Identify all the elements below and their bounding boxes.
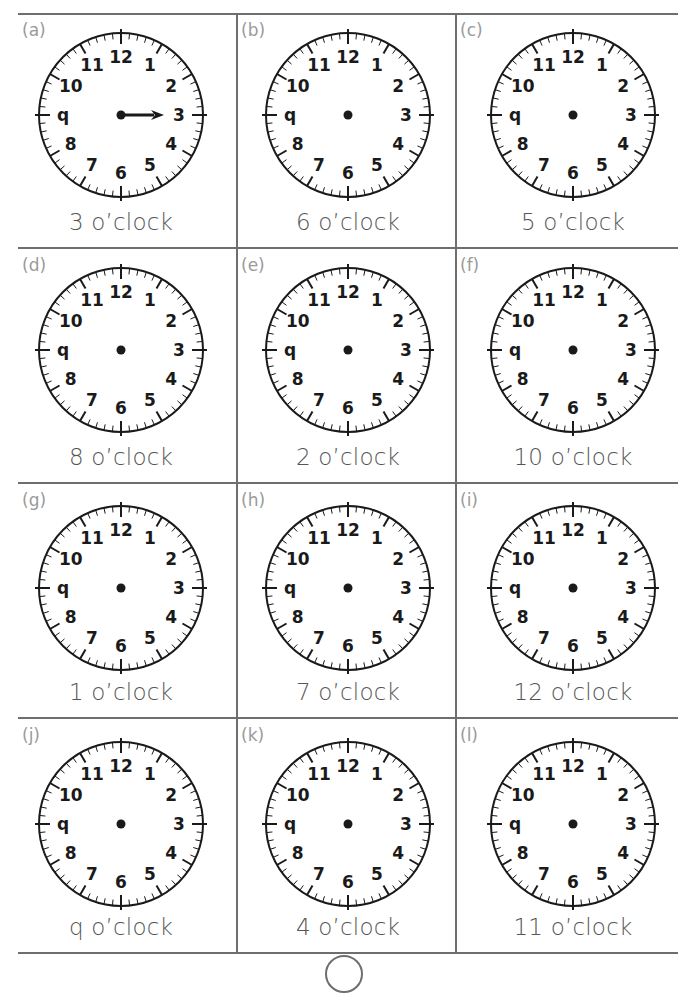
clock-numeral: 3 <box>400 340 412 360</box>
clock-numeral: 12 <box>561 47 585 67</box>
clock-numeral: 1 <box>371 764 383 784</box>
clock-numeral: 12 <box>109 756 133 776</box>
clock-center-dot <box>117 820 126 829</box>
clock-numeral: 5 <box>371 628 383 648</box>
clock-center-dot <box>117 584 126 593</box>
clock-face[interactable]: 1212345678q1011 <box>33 500 209 676</box>
clock-numeral: 4 <box>617 607 629 627</box>
clock-numeral: 3 <box>173 578 185 598</box>
clock-numeral: 11 <box>307 55 331 75</box>
clock-numeral: 1 <box>144 290 156 310</box>
clock-face[interactable]: 1212345678q1011 <box>485 262 661 438</box>
clock-face[interactable]: 1212345678q1011 <box>260 262 436 438</box>
minute-tick <box>424 341 430 342</box>
clock-numeral: 10 <box>286 311 310 331</box>
clock-numeral: 8 <box>65 607 77 627</box>
clock-numeral: 2 <box>392 549 404 569</box>
time-label: 11 o’clock <box>462 914 684 940</box>
minute-tick <box>129 268 130 274</box>
clock-numeral: 6 <box>342 636 354 656</box>
clock-cell-h: (h)1212345678q10117 o’clock <box>237 484 456 718</box>
minute-tick <box>112 33 113 39</box>
clock-cell-l: (l)1212345678q101111 o’clock <box>456 719 678 953</box>
clock-numeral: 7 <box>538 155 550 175</box>
clock-numeral: 3 <box>400 105 412 125</box>
clock-numeral: 12 <box>336 47 360 67</box>
minute-tick <box>197 358 203 359</box>
minute-tick <box>356 742 357 748</box>
clock-numeral: 12 <box>109 282 133 302</box>
clock-face[interactable]: 1212345678q1011 <box>33 262 209 438</box>
clock-numeral: 11 <box>80 290 104 310</box>
minute-tick <box>266 358 272 359</box>
clock-face[interactable]: 1212345678q1011 <box>485 500 661 676</box>
clock-numeral: 7 <box>313 390 325 410</box>
minute-tick <box>197 815 203 816</box>
clock-center-dot <box>344 111 353 120</box>
minute-tick <box>649 596 655 597</box>
clock-face[interactable]: 1212345678q1011 <box>485 27 661 203</box>
clock-numeral: 8 <box>517 607 529 627</box>
clock-cell-f: (f)1212345678q101110 o’clock <box>456 249 678 483</box>
clock-face[interactable]: 1212345678q1011 <box>485 736 661 912</box>
minute-tick <box>649 832 655 833</box>
clock-numeral: 3 <box>625 105 637 125</box>
minute-tick <box>649 341 655 342</box>
clock-face[interactable]: 1212345678q1011 <box>33 736 209 912</box>
clock-numeral: 8 <box>517 843 529 863</box>
clock-numeral: 12 <box>336 520 360 540</box>
clock-numeral: 6 <box>342 163 354 183</box>
clock-numeral: 8 <box>292 607 304 627</box>
clock-face[interactable]: 1212345678q1011 <box>33 27 209 203</box>
clock-numeral: 4 <box>165 607 177 627</box>
minute-tick <box>491 815 497 816</box>
minute-tick <box>39 596 45 597</box>
clock-numeral: 5 <box>144 390 156 410</box>
clock-numeral: 3 <box>173 340 185 360</box>
minute-tick <box>39 123 45 124</box>
clock-numeral: 1 <box>144 528 156 548</box>
time-label: 2 o’clock <box>239 444 458 470</box>
clock-numeral: 6 <box>567 398 579 418</box>
minute-tick <box>564 506 565 512</box>
clock-numeral: 7 <box>538 390 550 410</box>
clock-numeral: 2 <box>392 311 404 331</box>
clock-cell-e: (e)1212345678q10112 o’clock <box>237 249 456 483</box>
minute-tick <box>266 341 272 342</box>
clock-numeral: 11 <box>80 528 104 548</box>
time-label: 6 o’clock <box>239 209 458 235</box>
clock-cell-c: (c)1212345678q10115 o’clock <box>456 14 678 248</box>
clock-center-dot <box>569 346 578 355</box>
clock-numeral: 11 <box>532 764 556 784</box>
clock-numeral: 10 <box>286 785 310 805</box>
clock-face[interactable]: 1212345678q1011 <box>260 736 436 912</box>
minute-tick <box>649 106 655 107</box>
clock-numeral: 11 <box>532 528 556 548</box>
clock-numeral: q <box>284 814 296 834</box>
clock-numeral: 2 <box>392 76 404 96</box>
minute-tick <box>564 426 565 432</box>
minute-tick <box>112 426 113 432</box>
clock-numeral: 7 <box>86 628 98 648</box>
minute-tick <box>424 832 430 833</box>
clock-center-dot <box>569 111 578 120</box>
clock-numeral: 1 <box>596 764 608 784</box>
time-label: 8 o’clock <box>12 444 231 470</box>
minute-tick <box>266 106 272 107</box>
minute-tick <box>649 579 655 580</box>
clock-numeral: 11 <box>532 290 556 310</box>
clock-face[interactable]: 1212345678q1011 <box>260 27 436 203</box>
clock-numeral: 2 <box>617 549 629 569</box>
clock-numeral: 10 <box>511 76 535 96</box>
minute-tick <box>266 832 272 833</box>
minute-tick <box>339 33 340 39</box>
clock-numeral: 6 <box>115 872 127 892</box>
minute-tick <box>564 742 565 748</box>
clock-numeral: 1 <box>371 528 383 548</box>
clock-face[interactable]: 1212345678q1011 <box>260 500 436 676</box>
minute-tick <box>339 506 340 512</box>
time-label: 7 o’clock <box>239 679 458 705</box>
cell-letter: (l) <box>460 725 478 745</box>
clock-numeral: 2 <box>617 76 629 96</box>
clock-numeral: q <box>509 814 521 834</box>
